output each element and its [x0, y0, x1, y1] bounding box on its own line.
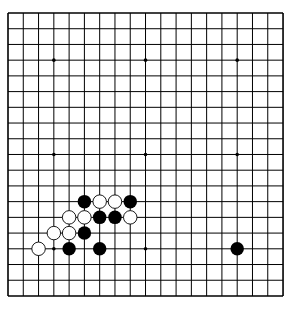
star-point — [52, 58, 56, 62]
star-point — [235, 58, 239, 62]
star-point — [144, 247, 148, 251]
star-point — [144, 58, 148, 62]
white-stone — [93, 195, 106, 208]
black-stone — [78, 226, 91, 239]
black-stone — [93, 211, 106, 224]
black-stone — [108, 211, 121, 224]
white-stone — [62, 211, 75, 224]
black-stone — [62, 242, 75, 255]
stones-layer — [32, 195, 244, 256]
black-stone — [230, 242, 243, 255]
star-point — [52, 247, 56, 251]
black-stone — [78, 195, 91, 208]
white-stone — [32, 242, 45, 255]
white-stone — [62, 226, 75, 239]
white-stone — [47, 226, 60, 239]
black-stone — [124, 195, 137, 208]
go-board[interactable] — [0, 0, 290, 312]
black-stone — [93, 242, 106, 255]
white-stone — [78, 211, 91, 224]
star-point — [52, 153, 56, 157]
star-point — [144, 153, 148, 157]
white-stone — [108, 195, 121, 208]
white-stone — [124, 211, 137, 224]
star-point — [235, 153, 239, 157]
